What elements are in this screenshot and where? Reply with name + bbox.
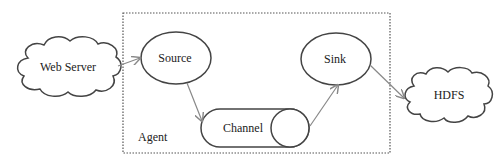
edge-source-to-channel xyxy=(187,83,202,121)
edge-channel-to-sink xyxy=(310,85,338,126)
web-server-label: Web Server xyxy=(40,60,96,74)
sink-label: Sink xyxy=(324,52,346,66)
agent-label: Agent xyxy=(138,130,168,144)
source-label: Source xyxy=(158,51,191,65)
channel-label: Channel xyxy=(223,121,264,135)
hdfs-label: HDFS xyxy=(434,88,465,102)
flume-diagram: Agent Web Server Source Sink Channel HDF… xyxy=(0,0,503,165)
sink-node: Sink xyxy=(301,33,371,85)
source-node: Source xyxy=(141,32,211,84)
edge-sink-to-hdfs xyxy=(370,65,404,98)
web-server-cloud: Web Server xyxy=(18,37,121,97)
edge-webserver-to-source xyxy=(118,58,140,66)
hdfs-cloud: HDFS xyxy=(405,68,492,123)
channel-node: Channel xyxy=(201,109,309,147)
